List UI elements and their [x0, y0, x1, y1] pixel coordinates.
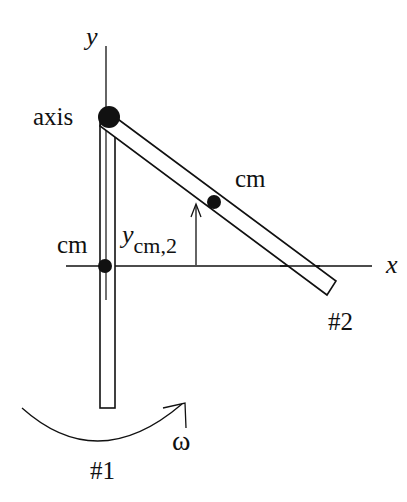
ycm2-label-subscript: cm,2 — [134, 233, 177, 258]
omega-label: ω — [172, 425, 190, 457]
rod-1-label: #1 — [90, 457, 115, 485]
axis-label: axis — [33, 103, 73, 131]
omega-rotation-arc — [22, 404, 182, 441]
y-axis-label: y — [86, 22, 98, 52]
rod-2-label: #2 — [328, 308, 353, 336]
cm-dot-rod-1 — [98, 259, 112, 273]
cm-label-rod-2: cm — [235, 165, 266, 193]
x-axis-label: x — [386, 250, 398, 280]
cm-label-rod-1: cm — [57, 231, 88, 259]
ycm2-label: ycm,2 — [122, 220, 177, 250]
ycm2-label-main: y — [122, 220, 134, 249]
cm-dot-rod-2 — [207, 195, 221, 209]
pivot-axis-dot — [98, 106, 120, 128]
